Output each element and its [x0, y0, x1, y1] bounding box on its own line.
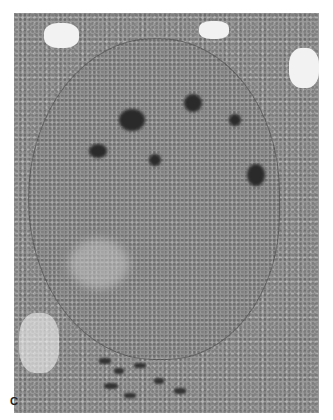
chromatin-clump — [119, 109, 145, 131]
chromatin-clump — [149, 154, 161, 166]
mitochondrion — [174, 388, 186, 394]
vacuole — [44, 23, 79, 48]
mitochondrion — [124, 393, 136, 398]
panel-label: C — [10, 395, 18, 407]
mitochondrion — [104, 383, 118, 389]
nucleus — [28, 38, 280, 360]
vacuole — [289, 48, 319, 88]
mitochondrion — [99, 358, 111, 364]
vacuole — [199, 21, 229, 39]
mitochondrion — [134, 363, 146, 368]
mitochondrion — [114, 368, 124, 374]
mitochondrion — [154, 378, 164, 384]
nucleolus-region — [69, 239, 129, 289]
electron-micrograph — [14, 13, 319, 413]
chromatin-clump — [184, 94, 202, 112]
chromatin-clump — [229, 114, 241, 126]
vacuole — [19, 313, 59, 373]
chromatin-clump — [247, 164, 265, 186]
chromatin-clump — [89, 144, 107, 158]
